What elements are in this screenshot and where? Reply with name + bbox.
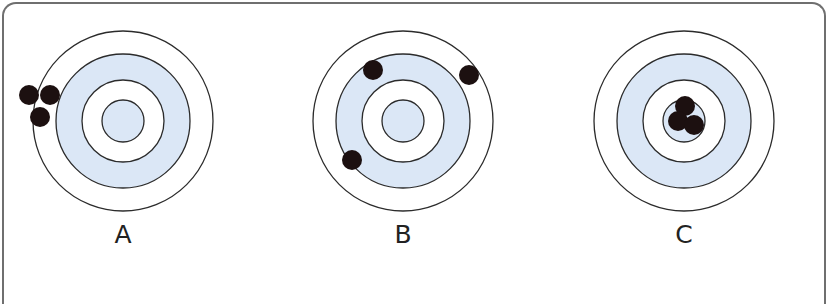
shot-mark	[40, 85, 60, 105]
target-b-label: B	[383, 220, 423, 250]
shot-mark	[459, 65, 479, 85]
target-ring	[102, 100, 144, 142]
shot-mark	[30, 107, 50, 127]
target-a-label: A	[103, 220, 143, 250]
shot-mark	[19, 85, 39, 105]
target-b	[313, 31, 493, 211]
target-c-label: C	[664, 220, 704, 250]
target-c	[594, 31, 774, 211]
target-a	[19, 31, 213, 211]
shot-mark	[363, 60, 383, 80]
shot-mark	[684, 115, 704, 135]
target-ring	[382, 100, 424, 142]
shot-mark	[342, 150, 362, 170]
